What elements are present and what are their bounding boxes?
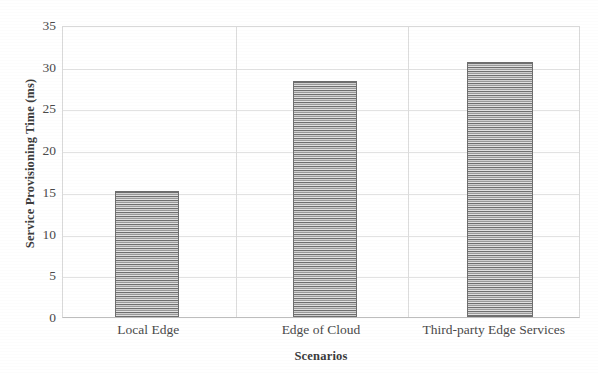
x-tick-local-edge: Local Edge — [117, 322, 179, 338]
gridline-v-1 — [236, 27, 237, 317]
x-tick-third-party-edge-services: Third-party Edge Services — [422, 322, 564, 338]
y-tick-20: 20 — [10, 143, 56, 159]
x-axis-title: Scenarios — [62, 349, 580, 364]
x-tick-edge-of-cloud: Edge of Cloud — [282, 322, 361, 338]
y-tick-15: 15 — [10, 185, 56, 201]
y-tick-0: 0 — [10, 310, 56, 326]
plot-area — [62, 26, 580, 318]
bar-edge-of-cloud[interactable] — [293, 81, 357, 317]
y-axis-tick-labels: 35 30 25 20 15 10 5 0 — [0, 0, 56, 373]
bar-chart-figure: Service Provisioning Time (ms) 35 30 25 … — [0, 0, 598, 373]
y-tick-10: 10 — [10, 227, 56, 243]
bar-local-edge[interactable] — [115, 191, 179, 317]
gridline-v-2 — [408, 27, 409, 317]
y-tick-30: 30 — [10, 60, 56, 76]
x-axis-tick-labels: Local Edge Edge of Cloud Third-party Edg… — [62, 322, 580, 346]
y-tick-25: 25 — [10, 101, 56, 117]
y-tick-35: 35 — [10, 18, 56, 34]
bar-third-party-edge-services[interactable] — [467, 62, 533, 317]
y-tick-5: 5 — [10, 268, 56, 284]
